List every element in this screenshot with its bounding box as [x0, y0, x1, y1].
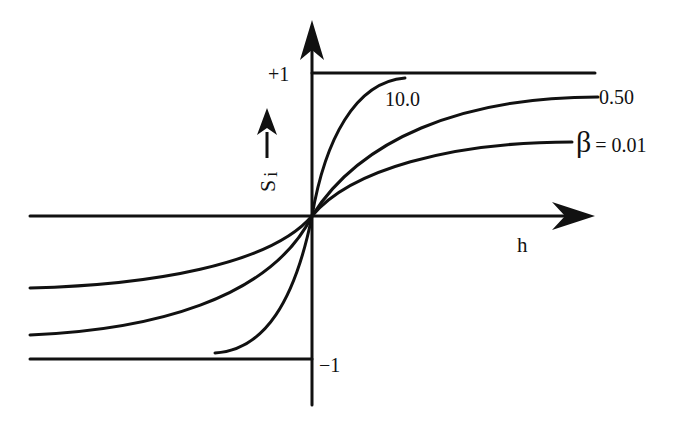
svg-text:Si: Si: [255, 172, 281, 192]
s-i-arrow-icon: [257, 108, 277, 135]
curve-label-beta-10: 10.0: [385, 88, 420, 110]
h-axis-label: h: [517, 233, 528, 257]
plus-one-label: +1: [268, 63, 289, 85]
curve-label-beta-0.50: 0.50: [599, 86, 634, 108]
minus-one-label: −1: [319, 354, 340, 376]
curve-label-beta-0.01: β= 0.01: [576, 125, 647, 158]
s-i-label: Si: [255, 108, 281, 192]
diagram-canvas: Si +1 −1 h 10.0 0.50 β= 0.01: [0, 0, 679, 430]
